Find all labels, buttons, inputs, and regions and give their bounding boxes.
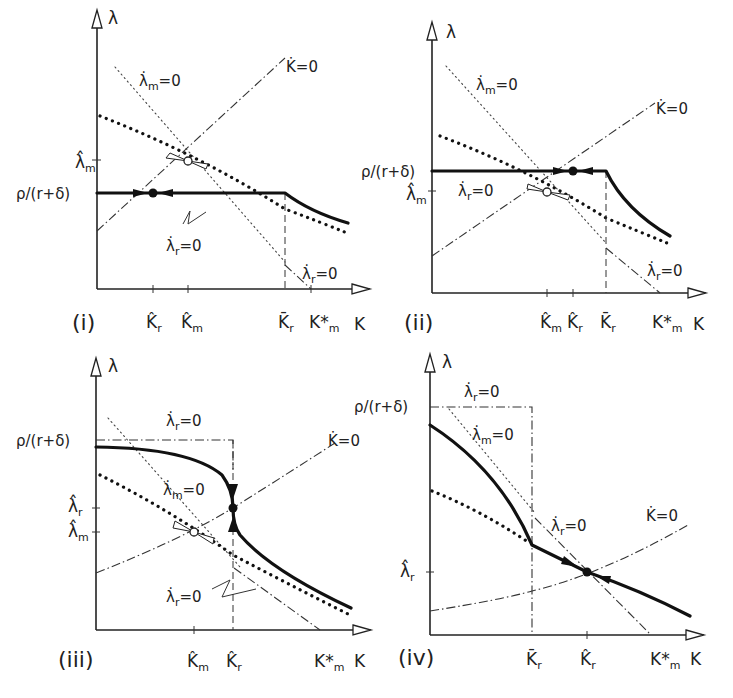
- y-tick-label: λ̂r: [400, 559, 415, 584]
- arrow-right-icon: [133, 189, 148, 197]
- y-axis-arrow-icon: [91, 358, 101, 376]
- stable-equilibrium-point: [583, 568, 592, 577]
- curve-label-k-dot: K̇=0: [328, 431, 360, 450]
- zigzag-pointer: [212, 580, 256, 597]
- x-axis-arrow-icon: [688, 288, 706, 298]
- curve-label-lambda-r-upper: λ̇r=0: [166, 411, 202, 433]
- y-axis-arrow-icon: [427, 22, 437, 40]
- heavy-dotted-curve: [432, 491, 528, 542]
- k-dot-isocline: [97, 58, 285, 231]
- arrow-left-icon: [578, 167, 593, 175]
- phase-diagram-figure: λ K (i) λ̂m ρ/(r+δ) K̂r K̂m K̄r K*m λ̇m=…: [0, 0, 733, 698]
- x-axis-arrow-icon: [353, 625, 371, 635]
- y-axis-label: λ: [442, 352, 452, 372]
- curve-label-lambda-m: λ̇m=0: [139, 71, 181, 93]
- k-dot-isocline: [432, 103, 655, 256]
- x-tick-label: K*m: [650, 649, 680, 672]
- panel-iv: λ K (iv) ρ/(r+δ) λ̂r K̄r K̂r K*m λ̇r=0 λ…: [354, 352, 704, 672]
- curve-label-lambda-m: λ̇m=0: [476, 75, 518, 97]
- x-tick-label: K*m: [652, 312, 682, 335]
- lambda-m-isocline: [446, 66, 606, 243]
- panel-i: λ K (i) λ̂m ρ/(r+δ) K̂r K̂m K̄r K*m λ̇m=…: [16, 8, 370, 335]
- curve-label-lambda-r-lower: λ̇r=0: [551, 516, 587, 538]
- y-tick-label: ρ/(r+δ): [361, 163, 415, 181]
- y-tick-label: ρ/(r+δ): [16, 185, 70, 203]
- x-tick-label: K̂m: [187, 651, 209, 674]
- curve-label-lambda-r: λ̇r=0: [458, 181, 494, 203]
- saddle-point: [543, 188, 551, 196]
- x-tick-label: K*m: [309, 312, 339, 335]
- curve-label-lambda-r: λ̇r=0: [166, 236, 202, 258]
- y-axis-arrow-icon: [425, 354, 435, 372]
- curve-label-lambda-r-lower: λ̇r=0: [302, 264, 338, 286]
- stable-path: [96, 447, 351, 608]
- curve-label-k-dot: K̇=0: [646, 506, 678, 525]
- x-tick-label: K̄r: [600, 311, 616, 335]
- x-tick-label: K̂m: [540, 312, 562, 335]
- x-axis-label: K: [354, 314, 366, 334]
- curve-label-k-dot: K̇=0: [286, 57, 318, 76]
- x-axis-label: K: [354, 651, 366, 671]
- heavy-dotted-curve: [100, 475, 350, 615]
- curve-label-k-dot: K̇=0: [656, 99, 688, 118]
- y-axis-label: λ: [446, 22, 456, 42]
- lambda-m-isocline: [449, 409, 535, 513]
- y-tick-label: ρ/(r+δ): [16, 432, 70, 450]
- x-axis-arrow-icon: [352, 284, 370, 294]
- lambda-r-isocline-lower: [535, 518, 651, 635]
- y-tick-label: λ̂m: [68, 519, 89, 544]
- curve-label-lambda-r-upper: λ̇r=0: [464, 382, 500, 404]
- zigzag-pointer: [183, 211, 206, 224]
- panel-label: (ii): [404, 310, 433, 335]
- stable-equilibrium-point: [569, 167, 578, 176]
- panel-ii: λ K (ii) ρ/(r+δ) λ̂m K̂m K̂r K̄r K*m λ̇m…: [361, 22, 706, 335]
- x-tick-label: K̂r: [567, 312, 583, 335]
- x-axis-label: K: [693, 314, 705, 334]
- panel-label: (iii): [58, 647, 94, 672]
- y-tick-label: ρ/(r+δ): [354, 398, 408, 416]
- stable-path: [432, 171, 670, 236]
- x-tick-label: K̂m: [181, 312, 203, 335]
- stable-equilibrium-point: [229, 504, 238, 513]
- y-tick-label: λ̂m: [75, 150, 96, 175]
- stable-equilibrium-point: [149, 189, 158, 198]
- y-axis-label: λ: [108, 8, 118, 28]
- arrow-left-icon: [596, 576, 611, 584]
- x-tick-label: K*m: [314, 651, 344, 674]
- saddle-point: [184, 157, 192, 165]
- x-tick-label: K̄r: [526, 648, 542, 672]
- panel-iii: λ K (iii) ρ/(r+δ) λ̂r λ̂m K̂m K̂r K*m λ̇…: [16, 356, 371, 674]
- k-dot-isocline: [96, 443, 335, 573]
- heavy-dotted-curve: [100, 116, 347, 233]
- curve-label-lambda-r-lower: λ̇r=0: [647, 261, 683, 283]
- curve-label-lambda-r-lower: λ̇r=0: [166, 587, 202, 609]
- x-axis-arrow-icon: [686, 630, 704, 640]
- arrow-right-icon: [561, 556, 578, 567]
- x-tick-label: K̄r: [278, 311, 294, 335]
- y-tick-label: λ̂r: [68, 494, 83, 519]
- curve-label-lambda-m: λ̇m=0: [472, 425, 514, 447]
- arrow-left-icon: [158, 189, 173, 197]
- x-tick-label: K̂r: [580, 649, 596, 672]
- saddle-point: [190, 528, 198, 536]
- stable-path: [97, 193, 348, 223]
- curve-label-lambda-m: λ̇m=0: [163, 480, 205, 502]
- panel-label: (iv): [398, 645, 434, 670]
- x-tick-label: K̂r: [226, 651, 242, 674]
- y-axis-arrow-icon: [92, 10, 102, 28]
- x-axis-label: K: [690, 649, 702, 669]
- y-axis-label: λ: [108, 356, 118, 376]
- y-tick-label: λ̂m: [406, 182, 427, 207]
- panel-label: (i): [72, 310, 95, 335]
- x-tick-label: K̂r: [146, 312, 162, 335]
- lambda-r-isocline-upper: [96, 440, 233, 470]
